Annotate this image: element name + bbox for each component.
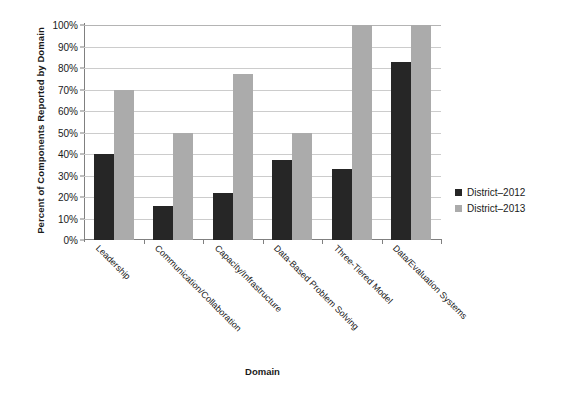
bar [114,90,134,241]
y-tick-label: 80% [58,63,78,74]
bar [292,133,312,241]
y-tick-label: 30% [58,170,78,181]
y-tick-label: 90% [58,41,78,52]
bar-chart: Percent of Components Reported by Domain… [0,0,563,396]
legend: District–2012District–2013 [455,184,525,216]
legend-label: District–2013 [467,203,525,214]
x-tick-mark [441,240,442,244]
x-axis-label: Three-Tiered Model [332,243,395,306]
legend-item: District–2013 [455,200,525,216]
y-tick-label: 0% [64,235,78,246]
bar [153,206,173,240]
bar-group [322,25,382,240]
bar [272,160,292,240]
bar-group [84,25,144,240]
y-tick-label: 20% [58,192,78,203]
legend-label: District–2012 [467,187,525,198]
bar-group [144,25,204,240]
bar [332,169,352,240]
bar [94,154,114,240]
bar [391,62,411,240]
y-tick-label: 60% [58,106,78,117]
y-tick-label: 50% [58,127,78,138]
x-axis-title: Domain [84,366,441,377]
legend-swatch-icon [455,189,462,196]
y-tick-label: 70% [58,84,78,95]
bar-groups [84,25,441,240]
x-axis-labels: LeadershipCommunication/CollaborationCap… [84,243,441,353]
legend-swatch-icon [455,205,462,212]
x-axis-label: Capacity/Infrastructure [213,243,284,314]
bar [213,193,233,240]
bar [173,133,193,241]
bar [352,25,372,240]
bar-group [263,25,323,240]
legend-item: District–2012 [455,184,525,200]
bar-group [203,25,263,240]
y-axis-title: Percent of Components Reported by Domain [35,11,46,251]
y-tick-label: 100% [52,20,78,31]
plot-area: 0%10%20%30%40%50%60%70%80%90%100% [84,25,441,240]
y-tick-label: 10% [58,213,78,224]
bar-group [382,25,442,240]
bar [233,74,253,240]
x-axis-label: Data/Evaluation Systems [391,243,469,321]
x-axis-label: Leadership [94,243,133,282]
y-tick-label: 40% [58,149,78,160]
bar [411,25,431,240]
